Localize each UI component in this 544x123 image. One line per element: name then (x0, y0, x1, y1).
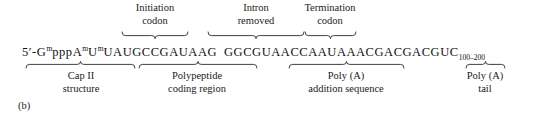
annotation-line-1: Termination (58, 2, 544, 15)
top-brace-group (122, 32, 356, 39)
sequence-segment-2: GGCGUAACCAAUAAACGACGACGUC (224, 45, 459, 59)
brace-cap-ii-structure (26, 61, 135, 68)
annotation-label-termination-codon: Termination codon (58, 2, 544, 27)
poly-a-length-subscript: 100–200 (459, 53, 485, 62)
annotation-line-1: Poly (A) (213, 70, 544, 83)
brace-initiation-codon (122, 32, 188, 39)
brace-intron-removed (208, 32, 304, 39)
mrna-structure-figure: Initiation codon Intron removed Terminat… (0, 0, 544, 123)
brace-poly-a-tail (466, 61, 505, 68)
cap-base-a: A (73, 45, 83, 59)
annotation-line-2: codon (58, 15, 544, 28)
cap-base-u: U (88, 45, 98, 59)
bottom-brace-group (26, 61, 505, 68)
brace-termination-codon (305, 32, 356, 39)
triphosphate-linker: ppp (52, 45, 72, 59)
annotation-label-poly-a-tail: Poly (A) tail (213, 70, 544, 95)
rna-sequence-text: 5ʹ-GmpppAmUmUAUGCCGAUAAGGGCGUAACCAAUAAAC… (22, 44, 485, 62)
sequence-segment-1: UAUGCCGAUAAG (103, 45, 217, 59)
cap-base-g: G (37, 45, 47, 59)
rna-sequence-line: 5ʹ-GmpppAmUmUAUGCCGAUAAGGGCGUAACCAAUAAAC… (0, 44, 544, 62)
brace-polypeptide-coding-region (139, 61, 257, 68)
five-prime-end: 5ʹ- (22, 45, 37, 59)
annotation-line-2: tail (213, 83, 544, 96)
panel-letter-label: (b) (18, 100, 30, 111)
brace-poly-a-addition-sequence (289, 61, 404, 68)
